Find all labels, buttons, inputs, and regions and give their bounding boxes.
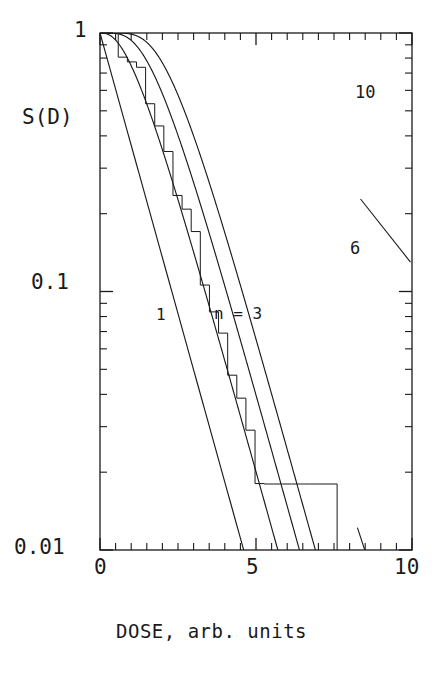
x-axis-title: DOSE, arb. units [116,622,307,641]
y-tick-label-0.1: 0.1 [31,272,69,293]
x-tick-label-0: 0 [94,557,107,578]
x-tick-label-5: 5 [246,557,259,578]
curve-label-n1: 1 [156,307,166,323]
x-tick-label-10: 10 [394,557,419,578]
curve-1 [100,33,262,617]
y-axis-title: S(D) [22,107,73,128]
curve-label-n10: 10 [355,84,375,101]
y-tick-label-0.01: 0.01 [14,537,65,558]
curve-3-montecarlo [100,26,337,550]
leader-line-10 [361,199,411,262]
curve-label-n3: n = 3 [214,306,262,322]
curve-label-n6: 6 [350,240,360,257]
curve-10 [100,33,334,617]
leader-line-6 [357,528,398,650]
curve-6 [100,33,318,617]
curve-3 [100,33,296,616]
y-tick-label-1: 1 [74,20,87,41]
figure-root: 1 0.1 0.01 S(D) 0 5 10 DOSE, arb. units … [0,0,442,674]
survival-curve-chart [0,0,442,674]
